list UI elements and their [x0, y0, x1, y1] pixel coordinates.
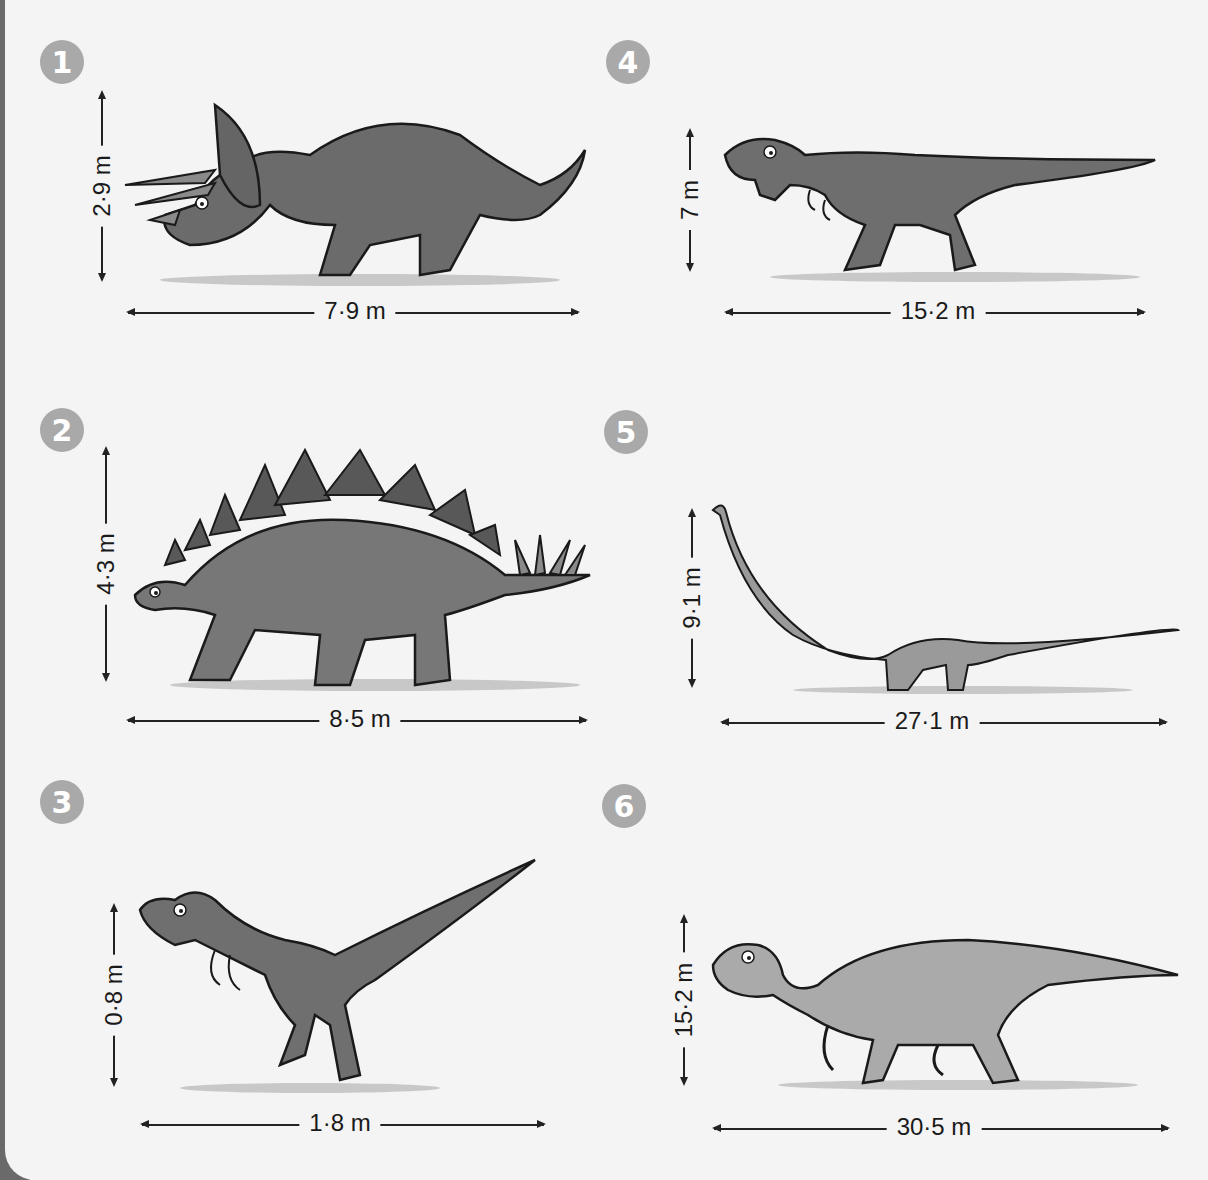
- height-label: 2·9 m: [88, 145, 116, 226]
- height-arrow: 0·8 m: [104, 905, 124, 1085]
- triceratops-illustration: [120, 95, 600, 295]
- height-arrow: 9·1 m: [682, 510, 702, 686]
- length-arrow: 30·5 m: [714, 1118, 1168, 1138]
- tyrannosaurus-illustration: [715, 125, 1165, 285]
- height-label: 15·2 m: [670, 953, 698, 1048]
- length-label: 7·9 m: [314, 297, 395, 325]
- panel-number-badge: 2: [40, 408, 84, 452]
- length-arrow: 1·8 m: [142, 1114, 544, 1134]
- stegosaurus-illustration: [125, 435, 600, 695]
- height-arrow: 4·3 m: [96, 448, 116, 680]
- length-arrow: 27·1 m: [722, 712, 1166, 732]
- diplodocus-illustration: [708, 500, 1188, 700]
- panel-number-badge: 1: [40, 40, 84, 84]
- height-label: 7 m: [676, 170, 704, 230]
- length-label: 30·5 m: [887, 1113, 982, 1141]
- panel-number-badge: 4: [606, 40, 650, 84]
- length-label: 8·5 m: [319, 705, 400, 733]
- height-label: 4·3 m: [92, 523, 120, 604]
- page-edge: [0, 0, 5, 1180]
- panel-number-badge: 3: [40, 780, 84, 824]
- panel-number-badge: 5: [604, 410, 648, 454]
- panel-number-badge: 6: [602, 784, 646, 828]
- height-arrow: 15·2 m: [674, 916, 694, 1084]
- height-label: 9·1 m: [678, 557, 706, 638]
- height-label: 0·8 m: [100, 954, 128, 1035]
- length-label: 15·2 m: [891, 297, 986, 325]
- velociraptor-illustration: [135, 855, 545, 1095]
- height-arrow: 7 m: [680, 130, 700, 270]
- length-arrow: 8·5 m: [128, 710, 586, 730]
- page-corner: [0, 1150, 30, 1180]
- length-label: 27·1 m: [885, 707, 980, 735]
- length-label: 1·8 m: [299, 1109, 380, 1137]
- length-arrow: 15·2 m: [726, 302, 1144, 322]
- iguanodon-illustration: [708, 935, 1188, 1095]
- height-arrow: 2·9 m: [92, 92, 112, 280]
- length-arrow: 7·9 m: [128, 302, 578, 322]
